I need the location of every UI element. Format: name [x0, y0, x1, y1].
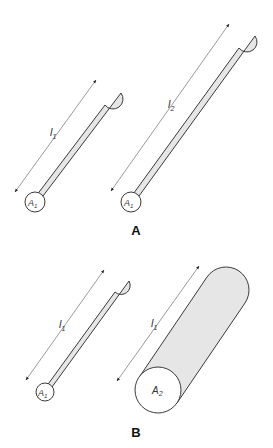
panel-label-a: A	[131, 223, 141, 238]
cylinder-b-left: l1 A1	[26, 270, 130, 401]
conductor-diagram: l1 A1 l2 A1 A l1 A1 l1 A2 B	[0, 0, 273, 448]
panel-label-b: B	[131, 425, 140, 440]
length-label: l2	[168, 98, 174, 112]
cylinder-body	[123, 36, 257, 208]
length-label: l1	[151, 317, 157, 331]
length-label: l1	[50, 126, 56, 140]
cylinder-a-left: l1 A1	[15, 80, 123, 212]
length-label: l1	[59, 318, 65, 332]
cylinder-b-right: l1 A2	[117, 266, 249, 413]
cylinder-body	[27, 93, 123, 208]
cylinder-a-right: l2 A1	[111, 24, 257, 212]
